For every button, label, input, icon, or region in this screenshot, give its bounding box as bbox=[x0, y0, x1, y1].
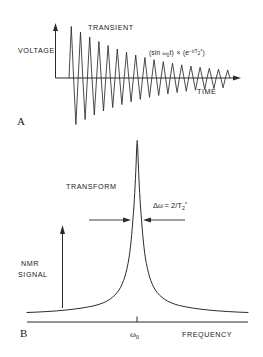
time-axis-label: TIME bbox=[197, 87, 216, 96]
omega-zero-label-text: ω0 bbox=[130, 329, 139, 340]
panel-b-group: Δω= 2/T2* TRANSFORM NMR SIGNAL ω0 FREQUE… bbox=[18, 141, 248, 341]
fid-waveform bbox=[69, 27, 230, 125]
nmr-fid-fourier-transform-figure: TRANSIENT VOLTAGE TIME (sin ω0t)×(e−t/T2… bbox=[0, 0, 263, 357]
linewidth-annotation-text: Δω= 2/T2* bbox=[153, 201, 187, 211]
panel-a-group: TRANSIENT VOLTAGE TIME (sin ω0t)×(e−t/T2… bbox=[17, 23, 241, 127]
nmr-signal-axis-label-line1: NMR bbox=[21, 259, 39, 268]
panel-a-title-label: TRANSIENT bbox=[88, 23, 134, 32]
nmr-signal-axis-arrow bbox=[60, 225, 65, 308]
nmr-signal-axis-arrowhead bbox=[60, 225, 65, 234]
time-axis-arrowhead bbox=[233, 76, 241, 81]
voltage-axis-label: VOLTAGE bbox=[18, 46, 55, 55]
nmr-signal-axis-label-line2: SIGNAL bbox=[18, 270, 48, 279]
time-axis-arrow bbox=[56, 76, 242, 81]
fid-formula-text: (sin ω0t)×(e−t/T2*) bbox=[149, 49, 205, 58]
lorentzian-curve bbox=[27, 141, 248, 313]
panel-b-title-label: TRANSFORM bbox=[66, 182, 116, 191]
panel-b-marker: B bbox=[20, 327, 27, 339]
omega-zero-label: ω0 bbox=[130, 329, 139, 340]
linewidth-arrows bbox=[89, 218, 185, 223]
panel-a-marker: A bbox=[17, 115, 25, 127]
voltage-axis-arrowhead bbox=[53, 23, 58, 31]
linewidth-annotation: Δω= 2/T2* bbox=[153, 201, 187, 211]
figure-canvas: TRANSIENT VOLTAGE TIME (sin ω0t)×(e−t/T2… bbox=[0, 0, 263, 357]
linewidth-arrow-left-head bbox=[123, 218, 131, 223]
frequency-axis-label: FREQUENCY bbox=[182, 330, 232, 339]
fid-formula: (sin ω0t)×(e−t/T2*) bbox=[149, 49, 205, 58]
linewidth-arrow-right-head bbox=[143, 218, 151, 223]
formula-sin-open: (sin bbox=[149, 49, 162, 57]
